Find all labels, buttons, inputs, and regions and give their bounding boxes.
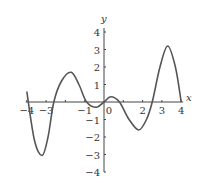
y-tick-label: −1 — [85, 115, 100, 126]
x-tick-label: 2 — [139, 105, 145, 116]
y-tick-label: −3 — [85, 150, 100, 161]
chart-plot: −4−3−102344321−1−2−3−4 x y — [0, 0, 202, 183]
y-tick-label: 1 — [94, 80, 100, 91]
x-tick-label: −4 — [19, 105, 34, 116]
x-tick-label: 4 — [178, 105, 184, 116]
y-tick-label: 3 — [94, 45, 100, 56]
x-axis-label: x — [186, 92, 192, 103]
y-tick-label: −2 — [85, 132, 100, 143]
y-axis-label: y — [100, 13, 107, 24]
y-tick-label: −4 — [85, 167, 100, 178]
x-tick-label: 0 — [106, 105, 112, 116]
y-tick-label: 4 — [94, 27, 100, 38]
chart: −4−3−102344321−1−2−3−4 x y — [0, 0, 202, 183]
y-tick-label: 2 — [94, 62, 100, 73]
x-tick-label: 3 — [159, 105, 165, 116]
